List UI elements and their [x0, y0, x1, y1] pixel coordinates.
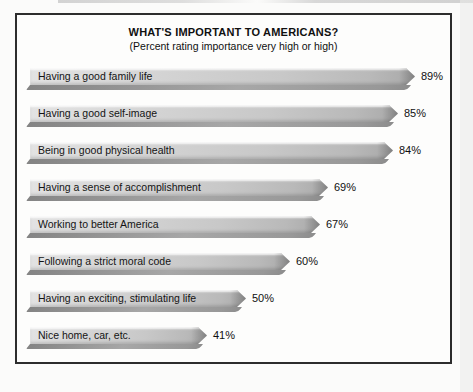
bar-label: Having a good family life: [38, 68, 152, 85]
bar: Having a sense of accomplishment: [30, 179, 328, 196]
bar-row: Working to better America67%: [30, 216, 320, 239]
bar: Having a good family life: [30, 68, 415, 85]
bar-value: 69%: [334, 181, 356, 194]
bar-3d-underside: [26, 307, 242, 312]
bar-3d-underside: [26, 122, 394, 127]
bar-label: Nice home, car, etc.: [38, 327, 131, 344]
chart-frame: WHAT'S IMPORTANT TO AMERICANS? (Percent …: [15, 13, 452, 364]
bar-value: 50%: [252, 292, 274, 305]
bar: Working to better America: [30, 216, 320, 233]
bar-row: Following a strict moral code60%: [30, 253, 290, 276]
bar-label: Working to better America: [38, 216, 159, 233]
bar-label: Being in good physical health: [38, 142, 175, 159]
bar-row: Being in good physical health84%: [30, 142, 393, 165]
bar-row: Nice home, car, etc.41%: [30, 327, 207, 350]
scan-artifact-top: [58, 0, 473, 3]
bar-label: Following a strict moral code: [38, 253, 171, 270]
bar-chart: Having a good family life89%Having a goo…: [17, 15, 450, 362]
bar-row: Having a good self-image85%: [30, 105, 398, 128]
bar: Being in good physical health: [30, 142, 393, 159]
bar-label: Having a sense of accomplishment: [38, 179, 201, 196]
bar: Nice home, car, etc.: [30, 327, 207, 344]
bar-value: 89%: [421, 70, 443, 83]
bar-row: Having a good family life89%: [30, 68, 415, 91]
bar-3d-underside: [26, 270, 286, 275]
scan-artifact-right: [460, 0, 473, 392]
bar-3d-underside: [26, 344, 203, 349]
bar-label: Having an exciting, stimulating life: [38, 290, 196, 307]
bar-row: Having an exciting, stimulating life50%: [30, 290, 246, 313]
bar-value: 67%: [326, 218, 348, 231]
bar-value: 60%: [296, 255, 318, 268]
bar-3d-underside: [26, 85, 411, 90]
bar-value: 85%: [404, 107, 426, 120]
bar-3d-underside: [26, 159, 389, 164]
bar-row: Having a sense of accomplishment69%: [30, 179, 328, 202]
scanned-page: WHAT'S IMPORTANT TO AMERICANS? (Percent …: [0, 0, 473, 392]
bar-value: 84%: [399, 144, 421, 157]
bar-3d-underside: [26, 233, 316, 238]
bar: Having an exciting, stimulating life: [30, 290, 246, 307]
bar: Having a good self-image: [30, 105, 398, 122]
bar-3d-underside: [26, 196, 324, 201]
bar-value: 41%: [213, 329, 235, 342]
bar: Following a strict moral code: [30, 253, 290, 270]
bar-label: Having a good self-image: [38, 105, 157, 122]
